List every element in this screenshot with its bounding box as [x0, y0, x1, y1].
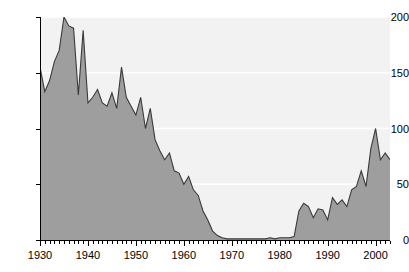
x-axis-minor-tick [227, 241, 228, 244]
x-axis-minor-tick [203, 241, 204, 244]
y-axis-tick-label: 200 [375, 11, 409, 23]
x-axis-minor-tick [390, 241, 391, 244]
x-axis-minor-tick [117, 241, 118, 244]
x-axis-minor-tick [131, 241, 132, 244]
x-axis-minor-tick [294, 241, 295, 244]
x-axis-minor-tick [304, 241, 305, 244]
x-axis-minor-tick [78, 241, 79, 244]
x-axis-minor-tick [256, 241, 257, 244]
x-axis-major-tick [232, 241, 233, 246]
x-axis-minor-tick [179, 241, 180, 244]
x-axis-minor-tick [385, 241, 386, 244]
x-axis-minor-tick [332, 241, 333, 244]
x-axis-minor-tick [208, 241, 209, 244]
x-axis-minor-tick [366, 241, 367, 244]
y-axis-tick-label: 50 [375, 178, 409, 190]
x-axis-major-tick [88, 241, 89, 246]
x-axis-minor-tick [107, 241, 108, 244]
x-axis-minor-tick [54, 241, 55, 244]
x-axis-minor-tick [222, 241, 223, 244]
x-axis-tick-label: 2000 [363, 249, 387, 261]
x-axis-minor-tick [169, 241, 170, 244]
x-axis-minor-tick [275, 241, 276, 244]
x-axis-minor-tick [356, 241, 357, 244]
x-axis-minor-tick [93, 241, 94, 244]
x-axis-minor-tick [165, 241, 166, 244]
x-axis-minor-tick [371, 241, 372, 244]
x-axis-minor-tick [141, 241, 142, 244]
x-axis-minor-tick [102, 241, 103, 244]
y-axis-tick-label: 150 [375, 67, 409, 79]
x-axis-tick-label: 1940 [76, 249, 100, 261]
x-axis-major-tick [184, 241, 185, 246]
x-axis-minor-tick [237, 241, 238, 244]
x-axis-minor-tick [270, 241, 271, 244]
x-axis-minor-tick [112, 241, 113, 244]
x-axis-tick-label: 1960 [172, 249, 196, 261]
x-axis-minor-tick [323, 241, 324, 244]
x-axis-minor-tick [69, 241, 70, 244]
x-axis-minor-tick [50, 241, 51, 244]
y-axis-tick-mark [36, 129, 40, 130]
x-axis-minor-tick [265, 241, 266, 244]
x-axis-minor-tick [126, 241, 127, 244]
x-axis-minor-tick [318, 241, 319, 244]
x-axis-minor-tick [251, 241, 252, 244]
x-axis-minor-tick [261, 241, 262, 244]
x-axis-minor-tick [155, 241, 156, 244]
y-axis-tick-label: 0 [375, 234, 409, 246]
x-axis-major-tick [328, 241, 329, 246]
x-axis-minor-tick [150, 241, 151, 244]
x-axis-minor-tick [217, 241, 218, 244]
x-axis-minor-tick [74, 241, 75, 244]
x-axis-minor-tick [189, 241, 190, 244]
plot-area [40, 17, 390, 240]
x-axis-major-tick [136, 241, 137, 246]
x-axis-major-tick [280, 241, 281, 246]
x-axis-major-tick [376, 241, 377, 246]
x-axis-minor-tick [313, 241, 314, 244]
y-axis-tick-mark [36, 73, 40, 74]
x-axis-minor-tick [160, 241, 161, 244]
x-axis-minor-tick [308, 241, 309, 244]
x-axis-minor-tick [83, 241, 84, 244]
x-axis-minor-tick [299, 241, 300, 244]
x-axis-minor-tick [174, 241, 175, 244]
x-axis-tick-label: 1930 [28, 249, 52, 261]
x-axis-tick-label: 1970 [220, 249, 244, 261]
x-axis-tick-label: 1950 [124, 249, 148, 261]
y-axis-line [40, 17, 41, 240]
x-axis-minor-tick [193, 241, 194, 244]
x-axis-minor-tick [342, 241, 343, 244]
x-axis-minor-tick [352, 241, 353, 244]
plot-svg [40, 17, 390, 240]
x-axis-minor-tick [198, 241, 199, 244]
x-axis-major-tick [40, 241, 41, 246]
x-axis-minor-tick [45, 241, 46, 244]
y-axis-tick-mark [36, 184, 40, 185]
x-axis-minor-tick [347, 241, 348, 244]
x-axis-minor-tick [98, 241, 99, 244]
x-axis-minor-tick [380, 241, 381, 244]
x-axis-minor-tick [59, 241, 60, 244]
y-axis-tick-label: 100 [375, 123, 409, 135]
x-axis-tick-label: 1980 [267, 249, 291, 261]
x-axis-minor-tick [145, 241, 146, 244]
x-axis-minor-tick [361, 241, 362, 244]
x-axis-minor-tick [213, 241, 214, 244]
area-chart: 050100150200 193019401950196019701980199… [0, 0, 409, 272]
x-axis-minor-tick [64, 241, 65, 244]
x-axis-minor-tick [241, 241, 242, 244]
x-axis-minor-tick [337, 241, 338, 244]
y-axis-tick-mark [36, 17, 40, 18]
x-axis-minor-tick [285, 241, 286, 244]
x-axis-minor-tick [122, 241, 123, 244]
x-axis-minor-tick [246, 241, 247, 244]
x-axis-minor-tick [289, 241, 290, 244]
x-axis-tick-label: 1990 [315, 249, 339, 261]
